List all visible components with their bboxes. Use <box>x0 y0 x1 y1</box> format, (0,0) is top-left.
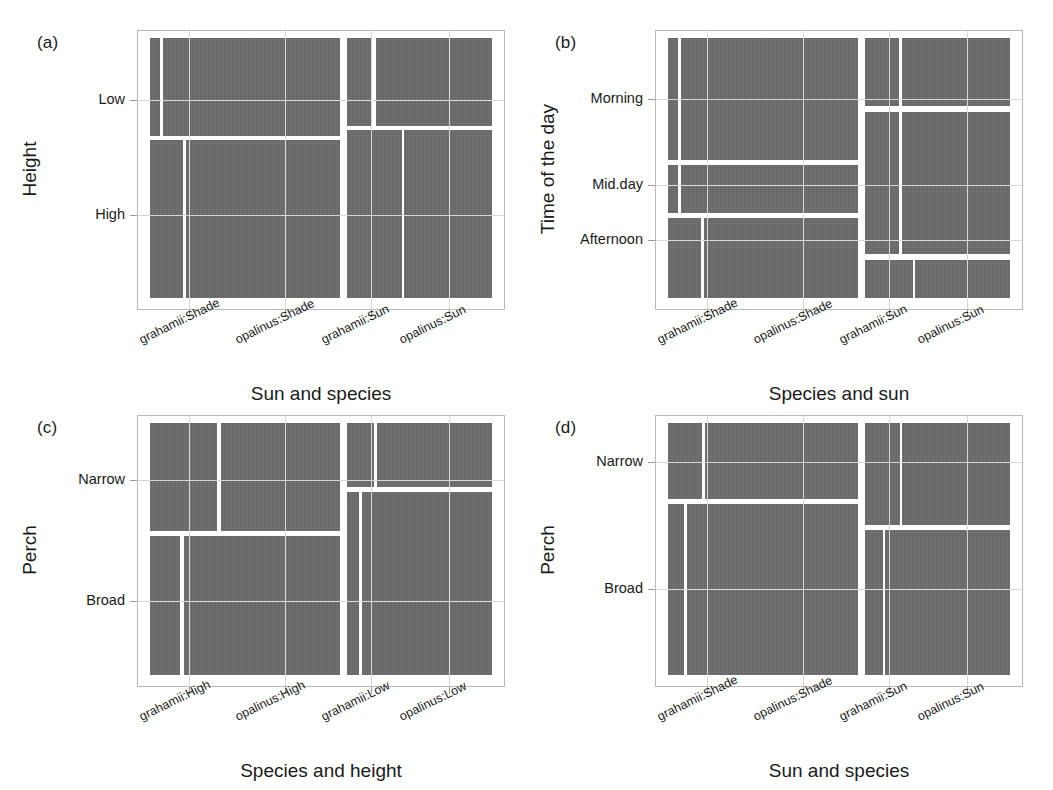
y-tick-label: Broad <box>32 592 125 608</box>
mosaic-tile <box>376 38 492 126</box>
mosaic-tile <box>362 492 492 675</box>
y-tick-mark <box>130 480 137 481</box>
x-gridline <box>707 416 708 686</box>
mosaic-tile <box>668 165 678 213</box>
x-gridline <box>285 31 286 309</box>
mosaic-area <box>668 423 1010 675</box>
x-gridline <box>371 416 372 686</box>
mosaic-tile <box>347 492 359 675</box>
x-gridline <box>889 31 890 309</box>
mosaic-tile <box>186 140 340 298</box>
mosaic-tile <box>885 530 1010 675</box>
mosaic-tile <box>865 423 900 525</box>
mosaic-tile <box>347 38 372 126</box>
panel-a: (a)LowHighgrahamii:Shadeopalinus:Shadegr… <box>0 0 527 395</box>
mosaic-tile <box>150 423 217 531</box>
y-tick-label: Broad <box>550 580 643 596</box>
y-tick-label: Narrow <box>550 453 643 469</box>
y-tick-label: Morning <box>550 90 643 106</box>
y-tick-label: Afternoon <box>550 231 643 247</box>
mosaic-tile <box>221 423 340 531</box>
x-axis-title: Species and height <box>137 760 505 782</box>
mosaic-tile <box>184 536 340 675</box>
y-axis-title: Time of the day <box>537 29 559 309</box>
mosaic-tile <box>668 423 702 499</box>
x-gridline <box>889 416 890 686</box>
mosaic-tile <box>150 536 180 675</box>
panel-c: (c)NarrowBroadgrahamii:Highopalinus:High… <box>0 395 527 790</box>
y-tick-mark <box>648 462 655 463</box>
y-tick-mark <box>648 185 655 186</box>
mosaic-area <box>668 38 1010 298</box>
x-gridline <box>803 31 804 309</box>
y-tick-label: Narrow <box>32 471 125 487</box>
mosaic-tile <box>668 218 701 298</box>
mosaic-area <box>150 423 492 675</box>
x-gridline <box>285 416 286 686</box>
mosaic-tile <box>865 38 899 106</box>
y-axis-title: Height <box>19 29 41 309</box>
x-gridline <box>967 416 968 686</box>
mosaic-tile <box>377 423 492 487</box>
y-tick-mark <box>130 100 137 101</box>
x-gridline <box>449 31 450 309</box>
x-gridline <box>189 416 190 686</box>
y-tick-mark <box>648 99 655 100</box>
y-tick-mark <box>648 589 655 590</box>
mosaic-tile <box>865 112 899 255</box>
x-axis-title: Sun and species <box>655 760 1023 782</box>
mosaic-tile <box>902 112 1010 255</box>
y-axis-title: Perch <box>537 414 559 686</box>
y-tick-label: Low <box>32 91 125 107</box>
y-axis-title: Perch <box>19 414 41 686</box>
panel-d: (d)NarrowBroadgrahamii:Shadeopalinus:Sha… <box>527 395 1053 790</box>
mosaic-tile <box>150 140 183 298</box>
x-gridline <box>707 31 708 309</box>
x-gridline <box>189 31 190 309</box>
mosaic-tile <box>902 423 1010 525</box>
mosaic-tile <box>705 423 858 499</box>
panel-b: (b)MorningMid.dayAfternoongrahamii:Shade… <box>527 0 1053 395</box>
y-tick-mark <box>648 240 655 241</box>
y-tick-mark <box>130 601 137 602</box>
x-gridline <box>967 31 968 309</box>
mosaic-tile <box>704 218 858 298</box>
mosaic-figure: (a)LowHighgrahamii:Shadeopalinus:Shadegr… <box>0 0 1053 790</box>
x-gridline <box>371 31 372 309</box>
x-gridline <box>803 416 804 686</box>
mosaic-tile <box>915 260 1010 298</box>
mosaic-area <box>150 38 492 298</box>
mosaic-tile <box>150 38 160 136</box>
mosaic-tile <box>865 530 883 675</box>
x-gridline <box>449 416 450 686</box>
y-tick-mark <box>130 215 137 216</box>
mosaic-tile <box>902 38 1010 106</box>
y-tick-label: Mid.day <box>550 176 643 192</box>
y-tick-label: High <box>32 206 125 222</box>
